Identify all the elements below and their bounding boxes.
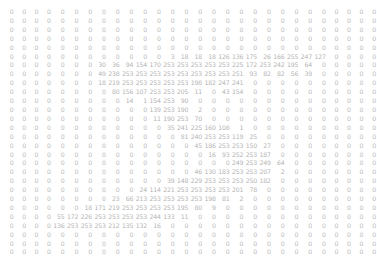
pixel-value-cell: 0 xyxy=(203,8,217,17)
pixel-value-cell: 0 xyxy=(39,151,51,160)
pixel-value-cell: 136 xyxy=(231,53,245,62)
pixel-value-cell: 0 xyxy=(39,79,51,88)
pixel-value-cell: 154 xyxy=(148,97,162,106)
pixel-value-cell: 0 xyxy=(79,195,93,204)
pixel-value-cell: 0 xyxy=(107,240,121,249)
pixel-value-cell: 0 xyxy=(2,97,14,106)
pixel-value-cell: 0 xyxy=(313,106,327,115)
pixel-value-cell: 0 xyxy=(39,222,51,231)
pixel-value-cell: 0 xyxy=(52,106,66,115)
pixel-value-cell: 0 xyxy=(52,88,66,97)
pixel-value-cell: 94 xyxy=(121,61,135,70)
pixel-value-cell: 135 xyxy=(121,222,135,231)
pixel-value-cell: 253 xyxy=(93,213,107,222)
pixel-value-cell: 0 xyxy=(14,159,26,168)
pixel-value-cell: 0 xyxy=(299,35,313,44)
pixel-value-cell: 0 xyxy=(203,231,217,240)
pixel-matrix-container: 0000000000000000000000000000000000000000… xyxy=(0,0,377,261)
pixel-value-cell: 0 xyxy=(286,204,300,213)
pixel-value-cell: 0 xyxy=(339,124,351,133)
pixel-value-cell: 0 xyxy=(299,177,313,186)
pixel-value-cell: 253 xyxy=(162,88,176,97)
pixel-value-cell: 0 xyxy=(148,53,162,62)
pixel-value-cell: 0 xyxy=(313,61,327,70)
pixel-value-cell: 0 xyxy=(27,186,39,195)
pixel-value-cell: 0 xyxy=(352,53,364,62)
pixel-value-cell: 0 xyxy=(339,106,351,115)
pixel-value-cell: 23 xyxy=(107,195,121,204)
pixel-value-cell: 0 xyxy=(27,248,39,257)
pixel-value-cell: 0 xyxy=(66,17,80,26)
pixel-value-cell: 0 xyxy=(14,26,26,35)
pixel-value-cell: 195 xyxy=(286,61,300,70)
pixel-value-cell: 255 xyxy=(286,53,300,62)
pixel-value-cell: 0 xyxy=(364,133,377,142)
pixel-value-cell: 82 xyxy=(272,70,286,79)
pixel-value-cell: 0 xyxy=(107,124,121,133)
pixel-value-cell: 0 xyxy=(134,151,148,160)
pixel-value-cell: 0 xyxy=(134,106,148,115)
pixel-value-cell: 0 xyxy=(2,61,14,70)
pixel-matrix-row: 0000000000003181818126136175261662552471… xyxy=(2,53,377,62)
pixel-value-cell: 187 xyxy=(258,151,272,160)
pixel-value-cell: 114 xyxy=(148,186,162,195)
pixel-value-cell: 0 xyxy=(134,26,148,35)
pixel-value-cell: 0 xyxy=(148,248,162,257)
pixel-value-cell: 0 xyxy=(286,168,300,177)
pixel-value-cell: 253 xyxy=(203,70,217,79)
pixel-value-cell: 0 xyxy=(364,204,377,213)
pixel-value-cell: 0 xyxy=(66,26,80,35)
pixel-value-cell: 253 xyxy=(176,61,190,70)
pixel-value-cell: 0 xyxy=(352,186,364,195)
pixel-value-cell: 0 xyxy=(134,240,148,249)
pixel-value-cell: 0 xyxy=(39,8,51,17)
pixel-value-cell: 0 xyxy=(162,26,176,35)
pixel-value-cell: 0 xyxy=(52,61,66,70)
pixel-matrix-row: 0000000303694154170253253253253253225172… xyxy=(2,61,377,70)
pixel-value-cell: 18 xyxy=(203,53,217,62)
pixel-value-cell: 39 xyxy=(299,70,313,79)
pixel-value-cell: 0 xyxy=(189,151,203,160)
pixel-value-cell: 0 xyxy=(327,213,339,222)
pixel-value-cell: 253 xyxy=(162,106,176,115)
pixel-value-cell: 0 xyxy=(121,44,135,53)
pixel-value-cell: 0 xyxy=(66,70,80,79)
pixel-value-cell: 0 xyxy=(327,133,339,142)
pixel-value-cell: 0 xyxy=(79,159,93,168)
pixel-value-cell: 0 xyxy=(258,213,272,222)
pixel-value-cell: 24 xyxy=(134,186,148,195)
pixel-value-cell: 0 xyxy=(93,186,107,195)
pixel-value-cell: 0 xyxy=(52,133,66,142)
pixel-matrix-row: 0000000000003524122516010810000000000 xyxy=(2,124,377,133)
pixel-value-cell: 0 xyxy=(258,133,272,142)
pixel-value-cell: 36 xyxy=(107,61,121,70)
pixel-value-table: 0000000000000000000000000000000000000000… xyxy=(2,8,377,257)
pixel-value-cell: 253 xyxy=(148,79,162,88)
pixel-value-cell: 253 xyxy=(79,222,93,231)
pixel-value-cell: 49 xyxy=(93,70,107,79)
pixel-value-cell: 0 xyxy=(299,115,313,124)
pixel-value-cell: 244 xyxy=(148,213,162,222)
pixel-value-cell: 11 xyxy=(176,213,190,222)
pixel-value-cell: 0 xyxy=(39,248,51,257)
pixel-value-cell: 0 xyxy=(14,70,26,79)
pixel-value-cell: 0 xyxy=(121,17,135,26)
pixel-value-cell: 253 xyxy=(162,61,176,70)
pixel-value-cell: 0 xyxy=(93,26,107,35)
pixel-value-cell: 0 xyxy=(339,151,351,160)
pixel-value-cell: 253 xyxy=(203,186,217,195)
pixel-value-cell: 0 xyxy=(364,17,377,26)
pixel-value-cell: 0 xyxy=(352,106,364,115)
pixel-value-cell: 81 xyxy=(176,133,190,142)
pixel-value-cell: 0 xyxy=(299,151,313,160)
pixel-value-cell: 0 xyxy=(79,248,93,257)
pixel-value-cell: 0 xyxy=(148,240,162,249)
pixel-value-cell: 93 xyxy=(244,70,258,79)
pixel-value-cell: 0 xyxy=(339,240,351,249)
pixel-value-cell: 0 xyxy=(339,231,351,240)
pixel-value-cell: 0 xyxy=(27,222,39,231)
pixel-value-cell: 0 xyxy=(14,168,26,177)
pixel-value-cell: 0 xyxy=(162,8,176,17)
pixel-value-cell: 0 xyxy=(327,35,339,44)
pixel-value-cell: 0 xyxy=(258,8,272,17)
